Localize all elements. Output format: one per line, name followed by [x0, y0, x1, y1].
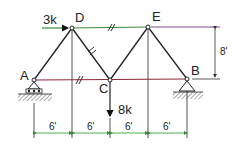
dimension-label-3: 6' [125, 121, 133, 132]
label-D: D [75, 10, 84, 25]
dimension-label-4: 6' [163, 121, 171, 132]
diagonal-tick-marks [88, 47, 96, 55]
label-C: C [99, 81, 108, 96]
load-label-3k: 3k [43, 12, 57, 27]
vertical-dimension-label: 8' [220, 46, 228, 57]
dimension-label-2: 6' [87, 121, 95, 132]
truss-diagonals [34, 27, 187, 80]
label-E: E [152, 9, 161, 24]
truss-diagram: 3k 8k A B C D E 8' 6' 6' 6' 6' [0, 0, 236, 146]
joint-E [146, 25, 150, 29]
joint-C [108, 78, 112, 82]
pin-support-B [173, 81, 203, 99]
dimension-label-1: 6' [49, 121, 57, 132]
roller-support-A [18, 82, 52, 101]
label-A: A [20, 68, 29, 83]
joint-D [70, 26, 74, 30]
label-B: B [191, 63, 200, 78]
load-label-8k: 8k [118, 102, 132, 117]
joints [32, 25, 189, 82]
